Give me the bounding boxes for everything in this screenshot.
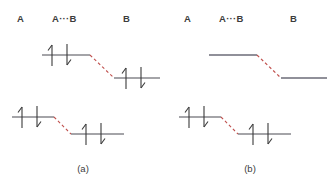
diagram-panel-b-upper xyxy=(167,38,333,93)
panel-caption-b: (b) xyxy=(167,163,333,174)
figure-canvas: A A···B B xyxy=(0,0,333,188)
panel-caption-a: (a) xyxy=(0,163,166,174)
dashed-connector xyxy=(221,117,238,134)
column-header-a: A xyxy=(184,13,191,24)
column-header-a-b: A···B xyxy=(219,13,244,24)
diagram-panel-a-upper xyxy=(0,38,166,93)
diagram-panel-b-lower xyxy=(167,100,333,155)
diagram-panel-a-lower xyxy=(0,100,166,155)
column-headers-panel-a: A A···B B xyxy=(0,13,166,29)
column-header-b: B xyxy=(290,13,297,24)
column-headers-panel-b: A A···B B xyxy=(167,13,333,29)
column-header-a: A xyxy=(17,13,24,24)
dashed-connector xyxy=(257,55,281,78)
column-header-b: B xyxy=(123,13,130,24)
panel-b: A A···B B xyxy=(167,0,333,188)
panel-a: A A···B B xyxy=(0,0,166,188)
dashed-connector xyxy=(54,117,71,134)
column-header-a-b: A···B xyxy=(52,13,77,24)
dashed-connector xyxy=(90,55,114,78)
